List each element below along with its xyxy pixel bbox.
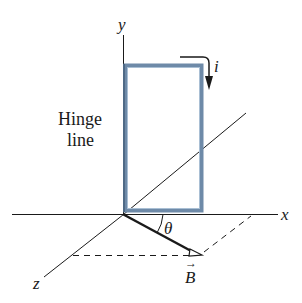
field-vector-B: [124, 215, 203, 257]
field-label: B: [185, 268, 196, 287]
current-arrow-icon: [180, 57, 213, 90]
current-label: i: [214, 57, 219, 76]
angle-arc: [157, 215, 163, 234]
current-loop: [126, 66, 202, 211]
diagram-canvas: y x z Hinge line i θ → B: [0, 0, 302, 303]
hinge-label-line1: Hinge: [58, 109, 102, 129]
hinge-label-line2: line: [67, 130, 94, 150]
angle-label: θ: [164, 219, 172, 238]
dashed-z-projection: [204, 216, 251, 252]
z-axis: [44, 215, 124, 278]
y-axis-label: y: [116, 15, 126, 34]
x-axis-label: x: [280, 205, 289, 224]
diagram-svg: y x z Hinge line i θ → B: [0, 0, 302, 303]
diagonal-reference-line: [124, 113, 247, 215]
z-axis-label: z: [32, 274, 40, 293]
